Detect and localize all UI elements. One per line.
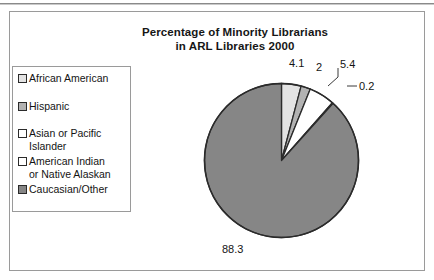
pie-chart	[203, 82, 360, 239]
legend-swatch-caucasian-other	[18, 185, 27, 194]
figure-page: Percentage of Minority Librarians in ARL…	[0, 0, 434, 280]
legend-label-asian-or-pacific-islander: Asian or Pacific Islander	[29, 127, 101, 152]
legend-swatch-african-american	[18, 74, 27, 83]
legend-swatch-american-indian-or-native-alaskan	[18, 157, 27, 166]
data-label-hispanic: 2	[316, 61, 322, 73]
legend-label-american-indian-or-native-alaskan: American Indian or Native Alaskan	[29, 155, 111, 180]
scan-rule-top-secondary	[0, 4, 434, 5]
chart-title: Percentage of Minority Librarians in ARL…	[110, 25, 360, 53]
chart-legend: African American Hispanic Asian or Pacif…	[12, 66, 131, 212]
legend-label-hispanic: Hispanic	[29, 100, 69, 113]
legend-swatch-hispanic	[18, 102, 27, 111]
chart-title-line-2: in ARL Libraries 2000	[110, 39, 360, 53]
data-label-caucasian-other: 88.3	[222, 243, 243, 255]
legend-item-hispanic: Hispanic	[18, 100, 127, 113]
pie-svg	[203, 82, 360, 239]
chart-title-line-1: Percentage of Minority Librarians	[110, 25, 360, 39]
legend-label-african-american: African American	[29, 72, 108, 85]
legend-item-caucasian-other: Caucasian/Other	[18, 183, 127, 196]
legend-label-caucasian-other: Caucasian/Other	[29, 183, 108, 196]
legend-item-asian-or-pacific-islander: Asian or Pacific Islander	[18, 127, 127, 152]
data-label-american-indian: 0.2	[359, 80, 374, 92]
legend-item-african-american: African American	[18, 72, 127, 85]
legend-item-american-indian-or-native-alaskan: American Indian or Native Alaskan	[18, 155, 127, 180]
data-label-asian-pacific: 5.4	[340, 58, 355, 70]
legend-swatch-asian-or-pacific-islander	[18, 129, 27, 138]
data-label-african-american: 4.1	[289, 57, 304, 69]
